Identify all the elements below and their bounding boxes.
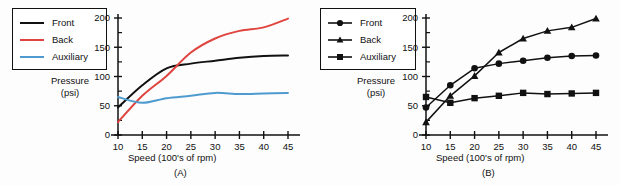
svg-text:25: 25 bbox=[186, 141, 197, 152]
svg-text:50: 50 bbox=[407, 100, 418, 111]
chart-panel-b: Front Back Auxiliary Pressure (psi) Spee… bbox=[310, 0, 620, 185]
plot-area-b: 0501001502001015202530354045 bbox=[310, 0, 620, 185]
svg-text:40: 40 bbox=[566, 141, 577, 152]
svg-text:30: 30 bbox=[210, 141, 221, 152]
svg-text:0: 0 bbox=[105, 129, 110, 140]
svg-text:25: 25 bbox=[494, 141, 505, 152]
chart-panel-a: Front Back Auxiliary Pressure (psi) Spee… bbox=[0, 0, 310, 185]
svg-text:200: 200 bbox=[402, 12, 418, 23]
svg-text:200: 200 bbox=[94, 12, 110, 23]
svg-text:150: 150 bbox=[94, 42, 110, 53]
svg-text:0: 0 bbox=[413, 129, 418, 140]
svg-text:100: 100 bbox=[402, 71, 418, 82]
svg-text:35: 35 bbox=[234, 141, 245, 152]
figure-canvas: Front Back Auxiliary Pressure (psi) Spee… bbox=[0, 0, 620, 185]
plot-area-a: 0501001502001015202530354045 bbox=[0, 0, 310, 185]
svg-text:10: 10 bbox=[421, 141, 432, 152]
svg-text:45: 45 bbox=[591, 141, 602, 152]
svg-text:20: 20 bbox=[469, 141, 480, 152]
svg-text:35: 35 bbox=[542, 141, 553, 152]
svg-text:40: 40 bbox=[258, 141, 269, 152]
svg-text:10: 10 bbox=[113, 141, 124, 152]
svg-text:150: 150 bbox=[402, 42, 418, 53]
svg-text:45: 45 bbox=[283, 141, 294, 152]
svg-text:50: 50 bbox=[99, 100, 110, 111]
svg-text:15: 15 bbox=[445, 141, 456, 152]
svg-text:100: 100 bbox=[94, 71, 110, 82]
svg-text:15: 15 bbox=[137, 141, 148, 152]
svg-text:20: 20 bbox=[161, 141, 172, 152]
svg-text:30: 30 bbox=[518, 141, 529, 152]
